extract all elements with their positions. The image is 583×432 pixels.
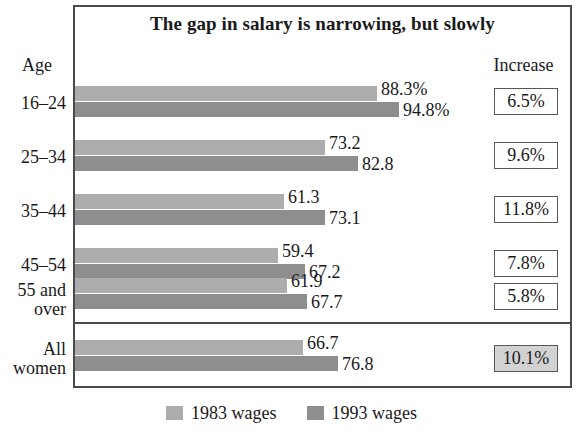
chart-legend: 1983 wages 1993 wages (0, 404, 583, 422)
row-label-5: All women (0, 340, 66, 378)
bar-1983-row-1 (75, 140, 325, 155)
row-label-5-line1: All (0, 340, 66, 359)
bar-1993-row-5 (75, 356, 338, 371)
row-label-0: 16–24 (0, 94, 66, 113)
row-label-1-line1: 25–34 (21, 147, 66, 167)
legend-item-1983: 1983 wages (166, 404, 276, 422)
bar-1993-row-1 (75, 156, 358, 171)
bar-1983-row-2 (75, 194, 284, 209)
legend-label-1983: 1983 wages (191, 404, 276, 422)
bar-value-1993-row-4: 67.7 (311, 293, 343, 311)
bar-1993-row-2 (75, 210, 325, 225)
legend-label-1993: 1993 wages (332, 404, 417, 422)
bar-value-1983-row-2: 61.3 (288, 188, 320, 206)
bar-value-1983-row-0: 88.3% (381, 80, 428, 98)
row-label-4: 55 and over (0, 281, 66, 319)
bar-1993-row-3 (75, 264, 305, 279)
row-label-5-line2: women (0, 359, 66, 378)
row-label-0-line1: 16–24 (21, 93, 66, 113)
chart-canvas: The gap in salary is narrowing, but slow… (0, 0, 583, 432)
increase-box-row-4: 5.8% (494, 283, 558, 310)
increase-box-row-3: 7.8% (494, 250, 558, 277)
legend-item-1993: 1993 wages (307, 404, 417, 422)
row-label-1: 25–34 (0, 148, 66, 167)
bar-value-1983-row-1: 73.2 (329, 134, 361, 152)
row-label-4-line2: over (0, 300, 66, 319)
bar-value-1983-row-4: 61.9 (291, 272, 323, 290)
increase-box-row-0: 6.5% (494, 88, 558, 115)
bar-1993-row-4 (75, 294, 307, 309)
page-title: The gap in salary is narrowing, but slow… (73, 13, 572, 35)
bar-value-1993-row-2: 73.1 (329, 209, 361, 227)
legend-swatch-1983-icon (166, 406, 183, 420)
panel-divider (73, 322, 572, 324)
bar-1993-row-0 (75, 102, 399, 117)
bar-1983-row-4 (75, 278, 287, 293)
legend-swatch-1993-icon (307, 406, 324, 420)
row-label-3-line1: 45–54 (21, 255, 66, 275)
bar-value-1983-row-5: 66.7 (307, 334, 339, 352)
row-label-2: 35–44 (0, 202, 66, 221)
bar-value-1983-row-3: 59.4 (282, 242, 314, 260)
bar-1983-row-0 (75, 86, 377, 101)
age-column-header: Age (8, 55, 66, 76)
bar-1983-row-5 (75, 340, 303, 355)
increase-box-row-1: 9.6% (494, 142, 558, 169)
increase-column-header: Increase (476, 55, 571, 76)
bar-value-1993-row-0: 94.8% (403, 101, 450, 119)
increase-box-row-2: 11.8% (494, 196, 558, 223)
row-label-2-line1: 35–44 (21, 201, 66, 221)
row-label-3: 45–54 (0, 256, 66, 275)
row-label-4-line1: 55 and (0, 281, 66, 300)
increase-box-row-5: 10.1% (494, 345, 558, 372)
bar-1983-row-3 (75, 248, 278, 263)
bar-value-1993-row-5: 76.8 (342, 355, 374, 373)
bar-value-1993-row-1: 82.8 (362, 155, 394, 173)
